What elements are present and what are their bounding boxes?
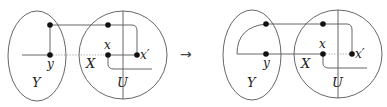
dot-top-Y-right xyxy=(263,21,269,27)
label-U-right: U xyxy=(332,75,344,90)
label-X-left: X xyxy=(85,56,96,71)
label-y-left: y xyxy=(46,57,54,71)
label-Y-right: Y xyxy=(247,75,257,90)
dot-top-U-left xyxy=(105,22,111,28)
left-dots xyxy=(47,22,140,58)
transformation-diagram: y Y x X x′ U → xyxy=(0,0,387,107)
dot-x-right xyxy=(320,51,326,57)
dot-top-Y-left xyxy=(47,22,53,28)
label-y-right: y xyxy=(262,56,270,70)
label-xp-left: x′ xyxy=(140,48,150,62)
label-Y-left: Y xyxy=(32,75,42,90)
dot-xp-right xyxy=(349,51,355,57)
right-dots xyxy=(263,21,355,57)
dot-top-U-right xyxy=(320,21,326,27)
label-x-right: x xyxy=(319,37,326,51)
diagram-canvas: y Y x X x′ U → xyxy=(0,0,387,107)
label-U-left: U xyxy=(117,75,129,90)
transform-arrow: → xyxy=(180,46,192,62)
dot-xp-left xyxy=(134,52,140,58)
dot-x-left xyxy=(105,52,111,58)
label-xp-right: x′ xyxy=(355,47,365,61)
label-X-right: X xyxy=(300,56,311,71)
label-x-left: x xyxy=(104,38,111,52)
arc-path-right xyxy=(237,24,266,54)
top-path-left xyxy=(50,25,137,55)
